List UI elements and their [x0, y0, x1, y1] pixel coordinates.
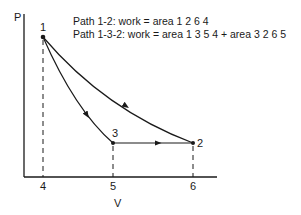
point-1-dot	[41, 35, 46, 40]
path-1-3-curve	[43, 37, 113, 143]
x-tick-4: 4	[40, 181, 46, 192]
caption-path-1-3-2: Path 1-3-2: work = area 1 3 5 4 + area 3…	[73, 28, 286, 40]
x-tick-6: 6	[190, 181, 196, 192]
point-2-label: 2	[197, 138, 203, 149]
caption-path-1-2: Path 1-2: work = area 1 2 6 4	[73, 15, 209, 27]
y-axis-label: P	[14, 12, 21, 23]
x-tick-5: 5	[110, 181, 116, 192]
x-axis-label: V	[114, 198, 121, 209]
point-3-label: 3	[112, 128, 118, 139]
point-3-dot	[111, 141, 115, 145]
point-1-label: 1	[40, 22, 46, 33]
arrow-icon-path-1-2	[114, 98, 126, 106]
point-2-dot	[191, 141, 195, 145]
